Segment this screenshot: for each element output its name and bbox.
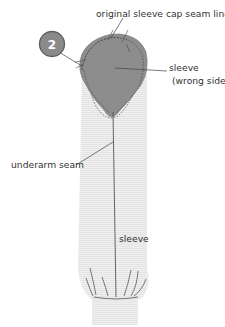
step-number: 2 [48, 38, 56, 52]
label-sleeve-wrong-side-2: (wrong side) [172, 75, 225, 86]
label-sleeve: sleeve [119, 233, 149, 244]
step-badge: 2 [40, 32, 65, 57]
cuff-band [92, 298, 138, 325]
label-sleeve-wrong-side-1: sleeve [169, 62, 199, 73]
label-seam-line: original sleeve cap seam line [96, 8, 225, 19]
label-underarm-seam: underarm seam [11, 159, 84, 170]
sleeve-diagram: 2 original sleeve cap seam line sleeve (… [0, 0, 225, 327]
